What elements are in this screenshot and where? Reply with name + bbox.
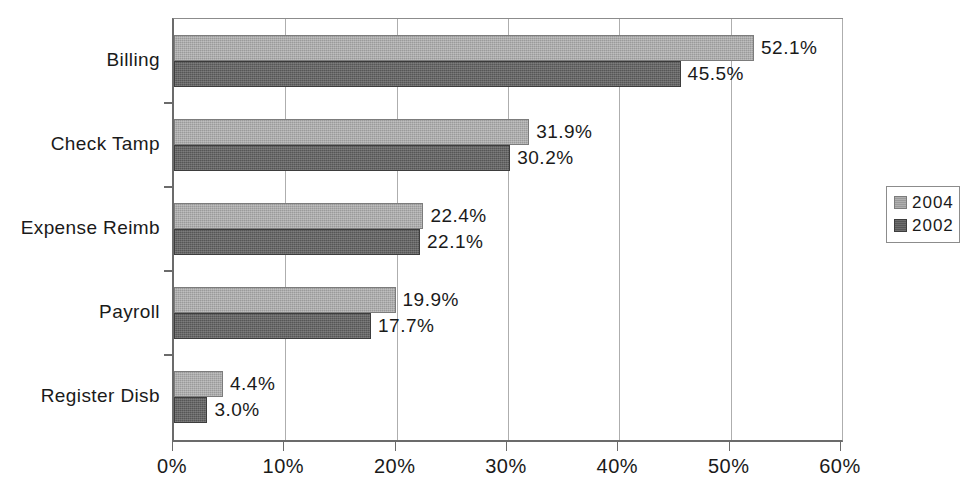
bar-value-label: 17.7% [378, 316, 434, 335]
bar-2004-check-tamp[interactable] [174, 119, 529, 145]
x-axis-tick [840, 442, 841, 451]
chart-legend: 20042002 [886, 186, 960, 243]
bar-value-label: 22.1% [427, 232, 483, 251]
x-axis-label-10%: 10% [263, 456, 305, 476]
legend-swatch-icon [894, 196, 907, 209]
x-axis-label-20%: 20% [374, 456, 416, 476]
bar-2004-billing[interactable] [174, 35, 754, 61]
bar-2002-register-disb[interactable] [174, 397, 207, 423]
x-axis-label-50%: 50% [708, 456, 750, 476]
bar-group: 22.4%22.1% [174, 187, 842, 271]
bar-value-label: 4.4% [230, 374, 275, 393]
x-axis-tick [729, 442, 730, 451]
bar-value-label: 45.5% [688, 64, 744, 83]
legend-label: 2002 [912, 217, 954, 234]
chart-page: 52.1%45.5%31.9%30.2%22.4%22.1%19.9%17.7%… [0, 0, 972, 492]
bar-2002-billing[interactable] [174, 61, 681, 87]
category-label-billing: Billing [0, 50, 160, 69]
bar-value-label: 31.9% [536, 122, 592, 141]
category-label-check-tamp: Check Tamp [0, 134, 160, 153]
x-axis-tick [395, 442, 396, 451]
x-axis-label-60%: 60% [819, 456, 861, 476]
y-axis-tick [164, 102, 173, 104]
x-axis-tick [506, 442, 507, 451]
x-axis-tick [283, 442, 284, 451]
bar-group: 19.9%17.7% [174, 271, 842, 355]
bar-value-label: 19.9% [403, 290, 459, 309]
x-axis-label-40%: 40% [597, 456, 639, 476]
bar-2004-register-disb[interactable] [174, 371, 223, 397]
bar-value-label: 22.4% [430, 206, 486, 225]
bar-group: 31.9%30.2% [174, 103, 842, 187]
plot-area: 52.1%45.5%31.9%30.2%22.4%22.1%19.9%17.7%… [172, 18, 843, 442]
legend-swatch-icon [894, 219, 907, 232]
category-label-expense-reimb: Expense Reimb [0, 218, 160, 237]
category-label-payroll: Payroll [0, 302, 160, 321]
gridline-60% [842, 19, 843, 440]
legend-item-2004[interactable]: 2004 [894, 194, 953, 211]
x-axis-label-0%: 0% [157, 456, 187, 476]
legend-label: 2004 [912, 194, 954, 211]
bar-2002-check-tamp[interactable] [174, 145, 510, 171]
bar-2002-payroll[interactable] [174, 313, 371, 339]
category-label-register-disb: Register Disb [0, 386, 160, 405]
y-axis-tick [164, 354, 173, 356]
bar-value-label: 3.0% [214, 400, 259, 419]
x-axis-tick [617, 442, 618, 451]
x-axis-label-30%: 30% [485, 456, 527, 476]
bar-value-label: 30.2% [517, 148, 573, 167]
bar-group: 52.1%45.5% [174, 19, 842, 103]
bar-2004-expense-reimb[interactable] [174, 203, 423, 229]
y-axis-tick [164, 270, 173, 272]
bar-2002-expense-reimb[interactable] [174, 229, 420, 255]
bar-value-label: 52.1% [761, 38, 817, 57]
y-axis-tick [164, 186, 173, 188]
legend-item-2002[interactable]: 2002 [894, 217, 953, 234]
bar-2004-payroll[interactable] [174, 287, 396, 313]
x-axis-tick [172, 442, 173, 451]
bar-group: 4.4%3.0% [174, 355, 842, 439]
